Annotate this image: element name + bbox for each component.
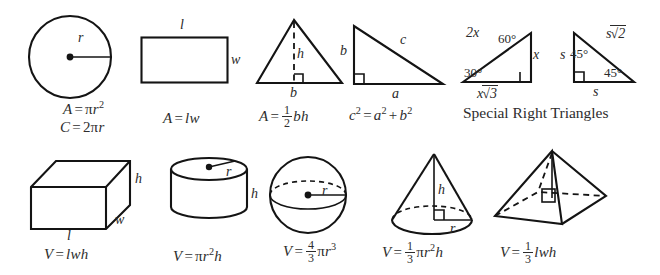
formula-tri-lhs: A xyxy=(259,108,268,124)
formula-pyth-b-exp: 2 xyxy=(407,105,412,116)
label-30-60-90-short-leg: x xyxy=(533,48,539,62)
formula-tri-den: 2 xyxy=(282,116,292,130)
label-45-45-90-hyp-radical: √2 xyxy=(610,25,626,41)
label-right-triangle-hypotenuse: c xyxy=(400,33,406,47)
formula-sph-pi: π xyxy=(317,243,325,259)
formula-cyl-eq: = xyxy=(182,248,195,264)
formula-rect-eq: = xyxy=(172,110,185,126)
formula-pyth-c: c xyxy=(349,107,356,123)
formula-prism-h: h xyxy=(81,246,89,262)
formula-cone-den: 3 xyxy=(405,252,415,266)
formula-cone-h: h xyxy=(435,244,443,260)
label-30-60-90-angle-60: 60° xyxy=(498,32,516,45)
formula-circle-circ-var: r xyxy=(98,119,104,135)
formula-cone-lhs: V xyxy=(382,244,391,260)
formula-cone-eq: = xyxy=(391,244,404,260)
label-45-45-90-leg-left: s xyxy=(560,48,565,62)
formula-prism-eq: = xyxy=(53,246,66,262)
formula-sph-fraction: 43 xyxy=(306,239,316,265)
formula-circle-circumference: C=2πr xyxy=(60,119,104,136)
formula-pyr-fraction: 13 xyxy=(523,240,533,266)
formula-pyr-num: 1 xyxy=(523,240,533,252)
formula-cyl-h: h xyxy=(214,248,222,264)
label-prism-length: l xyxy=(67,229,71,243)
formula-pyr-w: w xyxy=(539,244,549,260)
formula-pyth-plus: + xyxy=(387,107,400,123)
formula-cone-num: 1 xyxy=(405,240,415,252)
figure-cone xyxy=(384,150,484,242)
label-right-triangle-leg-b: b xyxy=(340,44,347,58)
label-45-45-90-hypotenuse: s√2 xyxy=(606,27,626,41)
label-circle-radius: r xyxy=(78,31,83,45)
label-prism-width: w xyxy=(115,213,124,227)
label-45-45-90-angle-bottom: 45° xyxy=(604,66,622,79)
formula-pyth-a: a xyxy=(374,107,382,123)
formula-sphere-volume: V=43πr3 xyxy=(283,239,336,265)
formula-sph-num: 4 xyxy=(306,239,316,251)
formula-tri-h: h xyxy=(301,108,309,124)
label-cone-radius: r xyxy=(450,222,455,236)
label-rectangle-length: l xyxy=(180,18,184,32)
formula-rectangle-area: A=lw xyxy=(163,110,200,127)
formula-cyl-pi: π xyxy=(195,248,203,264)
formula-circle-area-exp: 2 xyxy=(99,99,104,110)
formula-pyr-den: 3 xyxy=(523,252,533,266)
sphere-diagram xyxy=(266,155,356,237)
formula-circle-circ-lhs: C xyxy=(60,119,70,135)
label-rectangle-width: w xyxy=(231,53,240,67)
cone-diagram xyxy=(384,150,484,242)
formula-cyl-lhs: V xyxy=(173,248,182,264)
formula-pyr-eq: = xyxy=(509,244,522,260)
formula-cone-pi: π xyxy=(416,244,424,260)
formula-pyramid-volume: V=13lwh xyxy=(500,240,557,266)
formula-circle-circ-coef: 2 xyxy=(83,119,91,135)
formula-triangle-area: A=12bh xyxy=(259,104,309,130)
label-30-60-90-hypotenuse: 2x xyxy=(466,26,479,40)
formula-pyr-lhs: V xyxy=(500,244,509,260)
rectangle-diagram xyxy=(140,36,232,88)
formula-tri-num: 1 xyxy=(282,104,292,116)
formula-cylinder-volume: V=πr2h xyxy=(173,246,222,265)
formula-prism-w: w xyxy=(70,246,80,262)
formula-prism-lhs: V xyxy=(44,246,53,262)
label-sphere-radius: r xyxy=(322,184,327,198)
formula-circle-area-pi: π xyxy=(85,101,93,117)
figure-sphere xyxy=(266,155,356,237)
label-prism-height: h xyxy=(135,172,142,186)
formula-sph-eq: = xyxy=(292,243,305,259)
label-right-triangle-leg-a: a xyxy=(392,87,399,101)
figure-pyramid xyxy=(490,148,620,240)
label-30-60-90-long-leg: x√3 xyxy=(477,87,498,101)
caption-special-right-triangles: Special Right Triangles xyxy=(463,105,609,121)
formula-sph-exp: 3 xyxy=(331,241,336,252)
formula-circle-area-lhs: A xyxy=(63,101,72,117)
formula-rect-w: w xyxy=(189,110,199,126)
formula-pyth-eq: = xyxy=(361,107,374,123)
formula-cone-volume: V=13πr2h xyxy=(382,240,443,266)
figure-circle xyxy=(24,12,120,104)
formula-pythagorean-theorem: c2=a2+b2 xyxy=(349,105,413,124)
geometry-formula-sheet: r A=πr2 C=2πr l w A=lw h b A=12bh b c a xyxy=(0,0,660,275)
formula-tri-fraction: 12 xyxy=(282,104,292,130)
formula-cone-fraction: 13 xyxy=(405,240,415,266)
formula-circle-area-eq: = xyxy=(72,101,85,117)
formula-pyr-h: h xyxy=(549,244,557,260)
formula-rect-lhs: A xyxy=(163,110,172,126)
label-45-45-90-angle-top: 45° xyxy=(570,47,588,60)
label-30-60-90-long-leg-radical: √3 xyxy=(482,85,498,101)
circle-diagram xyxy=(24,12,120,104)
figure-cylinder xyxy=(168,155,258,231)
formula-sph-den: 3 xyxy=(306,251,316,265)
formula-circle-area: A=πr2 xyxy=(63,99,104,118)
label-triangle-height: h xyxy=(297,47,304,61)
figure-rectangle xyxy=(140,36,232,88)
label-30-60-90-angle-30: 30° xyxy=(464,66,482,79)
formula-tri-eq: = xyxy=(268,108,281,124)
label-triangle-base: b xyxy=(290,86,297,100)
label-cylinder-height: h xyxy=(251,187,258,201)
formula-tri-b: b xyxy=(293,108,301,124)
label-45-45-90-leg-bottom: s xyxy=(593,85,598,99)
formula-sph-lhs: V xyxy=(283,243,292,259)
label-cone-height: h xyxy=(438,183,445,197)
cylinder-diagram xyxy=(168,155,258,231)
